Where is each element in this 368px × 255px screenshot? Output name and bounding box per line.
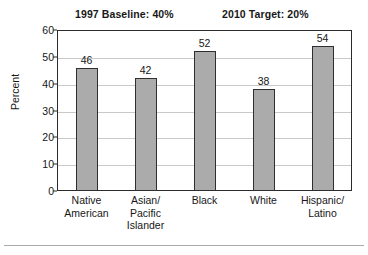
x-axis-category-label: Hispanic/Latino (293, 194, 352, 219)
y-axis-tick-label: 0 (14, 185, 54, 197)
bar-slot: 52 (175, 30, 234, 191)
category-label-line: White (234, 194, 293, 207)
chart-annotations: 1997 Baseline: 40% 2010 Target: 20% (0, 8, 368, 24)
category-label-line: Pacific (116, 207, 175, 220)
y-axis-tick-label: 50 (14, 51, 54, 63)
y-axis-tick-label: 30 (14, 105, 54, 117)
y-axis-tick-label: 20 (14, 131, 54, 143)
bar-chart-figure: 1997 Baseline: 40% 2010 Target: 20% Perc… (0, 0, 368, 255)
category-label-line: Asian/ (116, 194, 175, 207)
y-axis-tick-label: 10 (14, 158, 54, 170)
x-axis-category-label: Black (175, 194, 234, 207)
baseline-annotation: 1997 Baseline: 40% (75, 8, 174, 20)
bar-value-label: 52 (199, 37, 211, 49)
x-axis-category-label: Asian/PacificIslander (116, 194, 175, 232)
bar-slot: 42 (116, 30, 175, 191)
x-axis-categories: NativeAmericanAsian/PacificIslanderBlack… (57, 194, 352, 242)
bar-value-label: 42 (140, 64, 152, 76)
category-label-line: American (57, 207, 116, 220)
category-label-line: Hispanic/ (293, 194, 352, 207)
bar[interactable] (76, 68, 98, 191)
bar-slot: 46 (57, 30, 116, 191)
bar-value-label: 38 (258, 75, 270, 87)
bar-value-label: 54 (317, 32, 329, 44)
category-label-line: Black (175, 194, 234, 207)
category-label-line: Islander (116, 219, 175, 232)
bar[interactable] (253, 89, 275, 191)
bars-layer: 4642523854 (57, 30, 352, 191)
bar[interactable] (135, 78, 157, 191)
bar[interactable] (312, 46, 334, 191)
y-axis-title: Percent (9, 52, 21, 132)
y-axis-tick-label: 60 (14, 24, 54, 36)
bar-slot: 38 (234, 30, 293, 191)
y-axis-tick-label: 40 (14, 78, 54, 90)
x-axis-category-label: NativeAmerican (57, 194, 116, 219)
bottom-divider (4, 245, 364, 246)
bar-value-label: 46 (81, 54, 93, 66)
category-label-line: Native (57, 194, 116, 207)
x-axis-category-label: White (234, 194, 293, 207)
target-annotation: 2010 Target: 20% (222, 8, 309, 20)
category-label-line: Latino (293, 207, 352, 220)
bar-slot: 54 (293, 30, 352, 191)
bar[interactable] (194, 51, 216, 191)
